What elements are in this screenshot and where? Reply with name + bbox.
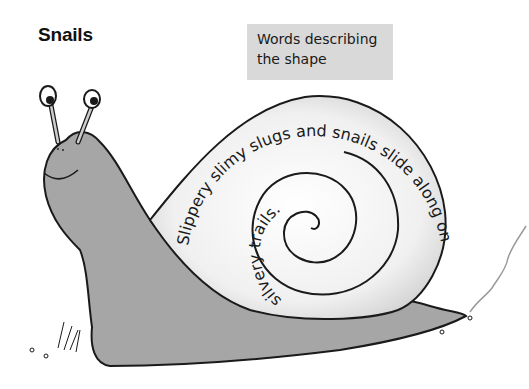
snail-illustration: Slippery slimy slugs and snails slide al… bbox=[0, 0, 529, 389]
slime-trail bbox=[470, 226, 526, 312]
